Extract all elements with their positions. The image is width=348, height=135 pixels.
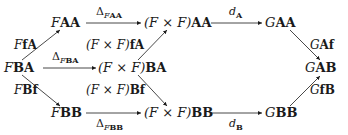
node-object: BB: [191, 105, 213, 120]
node-object: BA: [13, 60, 34, 75]
label-FfA: FfA: [14, 39, 37, 51]
label-GAf: GAf: [310, 39, 334, 51]
node-functor: G: [305, 60, 315, 75]
node-functor: (F × F): [144, 105, 191, 120]
label-morphism: Bf: [22, 83, 37, 97]
node-FAA: FAA: [51, 16, 80, 30]
label-symbol: Δ: [96, 117, 104, 130]
label-morphism: fB: [320, 83, 335, 97]
label-symbol: Δ: [52, 50, 60, 63]
node-object: BA: [145, 60, 166, 75]
node-GBB: GBB: [265, 106, 297, 120]
label-sub-object: B: [236, 122, 243, 132]
label-FxF-fA: (F × F)fA: [86, 39, 144, 51]
label-d-A: dA: [229, 6, 242, 21]
node-functor: (F × F): [144, 15, 191, 30]
label-morphism: fA: [22, 38, 36, 52]
label-symbol: d: [229, 5, 236, 18]
node-GAA: GAA: [265, 16, 296, 30]
label-sub-object: AA: [110, 10, 122, 20]
node-functor: G: [265, 105, 275, 120]
label-delta-FBB: ΔFBB: [96, 118, 123, 134]
node-FBB: FBB: [51, 106, 82, 120]
label-GfB: GfB: [310, 84, 335, 96]
label-symbol: d: [229, 117, 236, 130]
label-functor: G: [310, 38, 320, 52]
node-functor: (F × F): [98, 60, 145, 75]
node-object: AA: [275, 15, 295, 30]
node-object: AA: [191, 15, 211, 30]
node-GAB: GAB: [305, 61, 336, 75]
label-functor: (F × F): [86, 83, 130, 97]
label-d-B: dB: [229, 118, 243, 133]
node-object: BB: [275, 105, 297, 120]
label-sub-object: BA: [66, 55, 79, 65]
label-functor: G: [310, 83, 320, 97]
label-morphism: fA: [130, 38, 144, 52]
label-FxF-Bf: (F × F)Bf: [86, 84, 145, 96]
label-symbol: Δ: [96, 5, 104, 18]
node-functor: G: [265, 15, 275, 30]
label-morphism: Af: [320, 38, 334, 52]
node-functor: F: [51, 105, 60, 120]
node-object: BB: [60, 105, 82, 120]
node-FBA: FBA: [4, 61, 34, 75]
node-FxF-AA: (F × F)AA: [144, 16, 212, 30]
label-sub-object: A: [236, 10, 242, 20]
label-sub-object: BB: [110, 122, 124, 132]
node-object: AB: [315, 60, 336, 75]
label-morphism: Bf: [130, 83, 145, 97]
node-object: AA: [60, 15, 80, 30]
node-functor: F: [4, 60, 13, 75]
label-functor: (F × F): [86, 38, 130, 52]
label-FBf: FBf: [14, 84, 38, 96]
label-delta-FBA: ΔFBA: [52, 51, 78, 67]
node-FxF-BB: (F × F)BB: [144, 106, 213, 120]
node-functor: F: [51, 15, 60, 30]
label-delta-FAA: ΔFAA: [96, 6, 122, 22]
node-FxF-BA: (F × F)BA: [98, 61, 166, 75]
